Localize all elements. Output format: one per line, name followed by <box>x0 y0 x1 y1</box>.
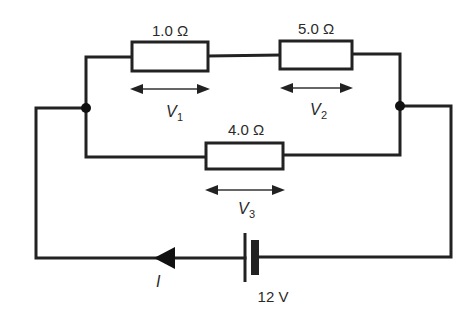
resistor-r2-label: 5.0 Ω <box>298 20 334 37</box>
resistor-r1-label: 1.0 Ω <box>152 22 188 39</box>
voltage-arrow-v3 <box>205 185 285 195</box>
resistor-r3-label: 4.0 Ω <box>228 121 264 138</box>
junction-left <box>81 103 91 113</box>
current-arrow-icon <box>154 247 175 269</box>
junction-right <box>395 101 405 111</box>
resistor-r3 <box>206 143 283 169</box>
wire-bottom-left <box>86 108 206 157</box>
top-branch <box>86 41 400 108</box>
circuit-diagram: 1.0 Ω 5.0 Ω 4.0 Ω V 1 V 2 V 3 I 12 V <box>0 0 475 323</box>
battery-short-plate <box>251 240 259 275</box>
resistor-r1 <box>132 42 208 71</box>
voltage-arrow-v1 <box>130 84 210 94</box>
resistor-r2 <box>280 41 352 69</box>
current-label: I <box>156 273 161 290</box>
wire-bottom-right <box>283 106 400 155</box>
wire-top-right <box>352 54 400 106</box>
voltage-v2-subscript: 2 <box>321 109 327 121</box>
wire-top-middle <box>208 55 280 56</box>
wire-outer-right <box>258 106 451 257</box>
wire-top-left <box>86 57 132 108</box>
battery-label: 12 V <box>258 288 289 305</box>
voltage-v3-subscript: 3 <box>249 208 255 220</box>
battery-symbol <box>245 233 259 282</box>
wire-outer-left <box>36 108 245 258</box>
voltage-arrow-v2 <box>280 83 353 93</box>
voltage-v1-subscript: 1 <box>177 111 183 123</box>
